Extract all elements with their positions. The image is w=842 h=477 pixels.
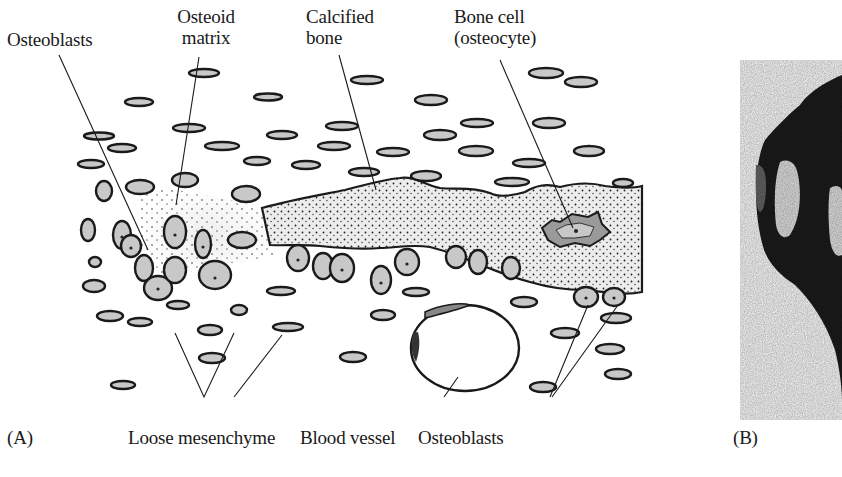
label-blood-vessel: Blood vessel: [300, 427, 395, 448]
label-line-2: (osteocyte): [454, 27, 536, 48]
label-line-1: Bone cell: [454, 6, 536, 27]
panel-label-a: (A): [7, 427, 33, 448]
micrograph-panel-b: [740, 60, 842, 420]
label-line-1: Calcified: [306, 6, 374, 27]
label-loose-mesenchyme: Loose mesenchyme: [128, 427, 275, 448]
panel-label-b: (B): [733, 427, 758, 448]
label-osteoblasts-top: Osteoblasts: [7, 29, 92, 50]
label-osteoblasts-bottom: Osteoblasts: [418, 427, 503, 448]
label-bone-cell-osteocyte: Bone cell (osteocyte): [454, 6, 536, 48]
label-line-2: bone: [306, 27, 374, 48]
label-line-1: Osteoid: [166, 6, 246, 27]
blood-vessel: [411, 304, 519, 391]
label-calcified-bone: Calcified bone: [306, 6, 374, 48]
label-osteoid-matrix: Osteoid matrix: [166, 6, 246, 48]
bone-formation-diagram: [0, 0, 842, 477]
label-line-2: matrix: [166, 27, 246, 48]
label-text: Osteoblasts: [7, 29, 92, 50]
